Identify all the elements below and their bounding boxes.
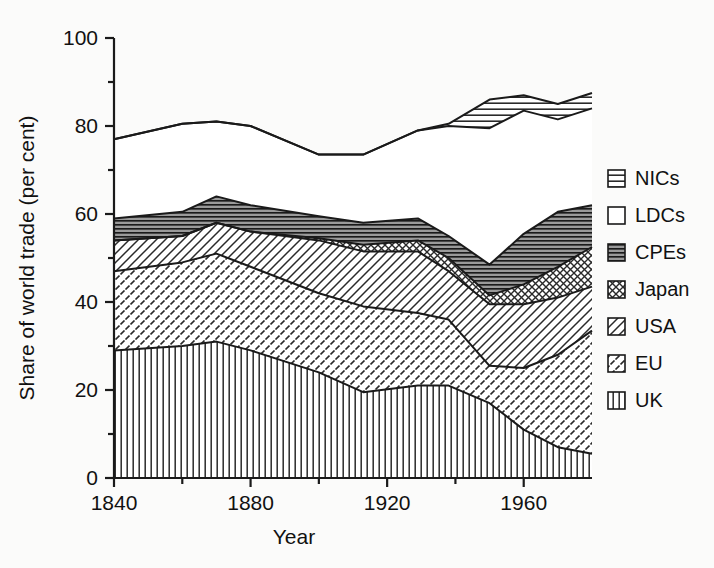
y-axis-title: Share of world trade (per cent) <box>15 116 38 401</box>
stacked-area-chart: 020406080100 1840188019201960 Year Share… <box>0 0 714 568</box>
legend-item-usa[interactable]: USA <box>608 315 677 337</box>
legend-item-eu[interactable]: EU <box>608 352 663 374</box>
legend-item-ldcs[interactable]: LDCs <box>608 204 685 226</box>
y-tick-label: 80 <box>75 114 98 137</box>
legend-swatch-vertical-lines <box>608 392 625 409</box>
legend-swatch-horizontal-lines <box>608 170 625 187</box>
legend-label: NICs <box>635 167 679 189</box>
legend-label: Japan <box>635 278 690 300</box>
legend-swatch-diagonal-hatch <box>608 318 625 335</box>
y-tick-label: 40 <box>75 290 98 313</box>
legend-label: CPEs <box>635 241 686 263</box>
legend-item-cpes[interactable]: CPEs <box>608 241 686 263</box>
y-tick-label: 20 <box>75 378 98 401</box>
chart-figure: 020406080100 1840188019201960 Year Share… <box>0 0 714 568</box>
y-tick-label: 60 <box>75 202 98 225</box>
x-tick-label: 1920 <box>364 491 411 514</box>
x-axis-title: Year <box>273 525 315 548</box>
x-tick-label: 1840 <box>91 491 138 514</box>
x-tick-label: 1960 <box>500 491 547 514</box>
y-tick-label: 100 <box>63 26 98 49</box>
legend-label: EU <box>635 352 663 374</box>
legend-swatch-dashed-diagonal <box>608 355 625 372</box>
legend-swatch-horizontal-dark <box>608 244 625 261</box>
x-tick-label: 1880 <box>227 491 274 514</box>
legend-label: UK <box>635 389 663 411</box>
y-tick-label: 0 <box>86 466 98 489</box>
legend-item-japan[interactable]: Japan <box>608 278 690 300</box>
legend-swatch-cross-hatch <box>608 281 625 298</box>
legend-item-uk[interactable]: UK <box>608 389 663 411</box>
legend-label: LDCs <box>635 204 685 226</box>
legend-swatch-blank <box>608 207 625 224</box>
legend-item-nics[interactable]: NICs <box>608 167 679 189</box>
legend-label: USA <box>635 315 677 337</box>
